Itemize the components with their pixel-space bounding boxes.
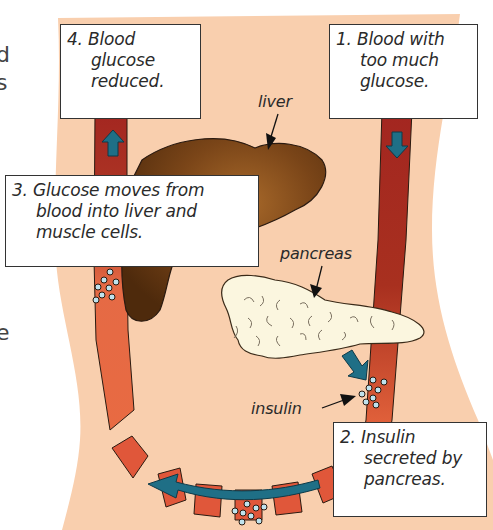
label-liver: liver [258,92,292,111]
callout-step-2-line-1: 2. Insulin [340,427,480,448]
callout-step-4-line-1: 4. Blood [67,29,194,50]
callout-step-3-line-3: muscle cells. [12,222,252,243]
callout-step-2: 2. Insulin secreted by pancreas. [333,422,487,517]
edge-text-fragment-middle: s [0,72,7,94]
edge-text-fragment-top: d [0,44,10,66]
callout-step-1-line-1: 1. Blood with [336,29,471,50]
callout-step-3-line-2: blood into liver and [12,201,252,222]
callout-step-4-line-2: glucose [67,50,194,71]
callout-step-1-line-2: too much [336,50,471,71]
label-pancreas: pancreas [280,244,352,263]
callout-step-2-line-3: pancreas. [340,469,480,490]
callout-step-4-line-3: reduced. [67,71,194,92]
callout-step-1-line-3: glucose. [336,71,471,92]
label-insulin: insulin [251,399,302,418]
callout-step-3: 3. Glucose moves from blood into liver a… [5,175,259,267]
edge-text-fragment-bottom: e [0,322,10,344]
callout-step-4: 4. Blood glucose reduced. [60,24,201,119]
callout-step-1: 1. Blood with too much glucose. [329,24,478,119]
callout-step-2-line-2: secreted by [340,448,480,469]
callout-step-3-line-1: 3. Glucose moves from [12,180,252,201]
